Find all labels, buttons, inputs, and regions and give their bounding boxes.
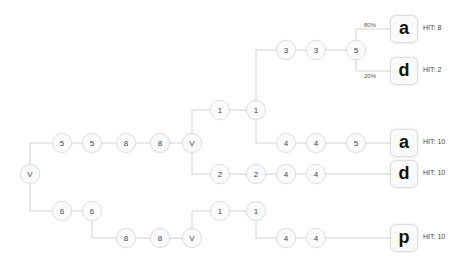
- leaf-node[interactable]: a: [390, 129, 418, 157]
- tree-node[interactable]: 4: [306, 228, 326, 248]
- tree-node[interactable]: 2: [246, 164, 266, 184]
- leaf-node[interactable]: d: [390, 160, 418, 188]
- tree-node[interactable]: 1: [210, 201, 230, 221]
- tree-node[interactable]: 4: [306, 164, 326, 184]
- leaf-node[interactable]: d: [390, 57, 418, 85]
- tree-node[interactable]: 4: [276, 164, 296, 184]
- tree-node[interactable]: 8: [116, 133, 136, 153]
- tree-node[interactable]: 8: [116, 228, 136, 248]
- tree-node[interactable]: V: [20, 164, 40, 184]
- tree-node[interactable]: 3: [306, 40, 326, 60]
- tree-node[interactable]: 5: [346, 133, 366, 153]
- tree-node[interactable]: 1: [246, 201, 266, 221]
- hit-count-label: HIT: 10: [423, 169, 445, 176]
- leaf-node[interactable]: p: [390, 224, 418, 252]
- tree-node[interactable]: 2: [210, 164, 230, 184]
- hit-count-label: HIT: 2: [423, 66, 441, 73]
- tree-node[interactable]: 6: [82, 201, 102, 221]
- hit-count-label: HIT: 8: [423, 24, 441, 31]
- tree-node[interactable]: V: [182, 133, 202, 153]
- tree-node[interactable]: 4: [276, 133, 296, 153]
- tree-node[interactable]: 3: [276, 40, 296, 60]
- tree-node[interactable]: 8: [150, 133, 170, 153]
- probability-label: 20%: [364, 73, 376, 79]
- tree-node[interactable]: 4: [306, 133, 326, 153]
- tree-node[interactable]: 5: [82, 133, 102, 153]
- tree-node[interactable]: 4: [276, 228, 296, 248]
- probability-label: 80%: [364, 22, 376, 28]
- tree-node[interactable]: 5: [346, 40, 366, 60]
- hit-count-label: HIT: 10: [423, 233, 445, 240]
- tree-node[interactable]: 1: [246, 100, 266, 120]
- tree-node[interactable]: V: [182, 228, 202, 248]
- tree-node[interactable]: 6: [52, 201, 72, 221]
- leaf-node[interactable]: a: [390, 15, 418, 43]
- tree-node[interactable]: 1: [210, 100, 230, 120]
- tree-node[interactable]: 8: [150, 228, 170, 248]
- hit-count-label: HIT: 10: [423, 138, 445, 145]
- tree-node[interactable]: 5: [52, 133, 72, 153]
